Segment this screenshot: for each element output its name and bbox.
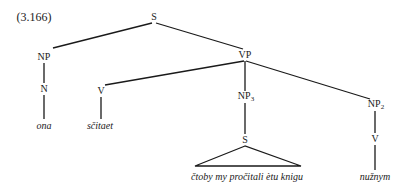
example-number: (3.166) [17,11,52,23]
word-ona: ona [37,121,52,131]
word-clause: čtoby my pročitali ètu knigu [191,172,303,182]
node-np: NP [38,52,51,62]
node-np2: NP2 [368,99,384,111]
node-np3-subscript: 3 [251,95,255,103]
edge-vp-np2 [246,61,370,99]
node-v2: V [371,134,378,144]
node-s-root: S [151,12,157,22]
edge-s-np [53,23,152,48]
syntax-tree-diagram: (3.166) S NP N ona VP V sčitaet NP3 S čt… [0,0,405,189]
node-np2-subscript: 2 [381,103,385,111]
node-vp: VP [239,50,252,60]
edge-s-vp [156,23,243,49]
word-scitaet: sčitaet [87,121,113,131]
clause-triangle [195,146,301,166]
node-s-embedded: S [242,135,248,145]
tree-edges [0,0,405,189]
word-nuznym: nužnym [360,172,391,182]
node-np3-label: NP [238,90,251,101]
node-v: V [97,86,104,96]
node-np3: NP3 [238,91,254,103]
node-np2-label: NP [368,98,381,109]
edge-vp-v [105,61,244,85]
node-n: N [40,84,47,94]
